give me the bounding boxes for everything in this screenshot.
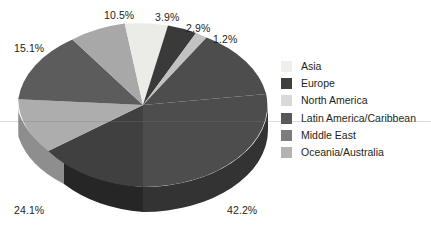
label-latin-america-pct: 1.2% — [213, 33, 237, 45]
label-middle-east-pct: 10.5% — [104, 9, 134, 21]
legend-swatch-europe — [281, 78, 292, 89]
legend-swatch-oceania — [281, 147, 292, 158]
legend-label-oceania: Oceania/Australia — [301, 147, 384, 158]
legend-label-north-america: North America — [301, 95, 368, 106]
legend-item-europe[interactable]: Europe — [281, 75, 431, 92]
legend-swatch-middle-east — [281, 130, 292, 141]
legend-item-latin-america[interactable]: Latin America/Caribbean — [281, 110, 431, 127]
legend-item-north-america[interactable]: North America — [281, 92, 431, 109]
label-oceania-pct: 15.1% — [14, 42, 44, 54]
pie-graphic — [0, 0, 285, 235]
legend-label-europe: Europe — [301, 78, 335, 89]
pie-svg — [0, 0, 285, 235]
pie-chart: 10.5% 3.9% 2.9% 1.2% 15.1% 24.1% 42.2% A… — [0, 0, 431, 235]
label-north-america-pct: 3.9% — [155, 11, 179, 23]
label-asia-pct: 42.2% — [227, 204, 257, 216]
legend-label-latin-america: Latin America/Caribbean — [301, 113, 416, 124]
legend-swatch-asia — [281, 61, 292, 72]
label-europe-pct: 24.1% — [14, 204, 44, 216]
legend-swatch-latin-america — [281, 113, 292, 124]
legend-label-middle-east: Middle East — [301, 130, 356, 141]
wall-oceania-tip — [18, 105, 19, 137]
legend-swatch-north-america — [281, 95, 292, 106]
legend-item-asia[interactable]: Asia — [281, 58, 431, 75]
legend: Asia Europe North America Latin America/… — [281, 58, 431, 161]
legend-label-asia: Asia — [301, 61, 321, 72]
legend-item-oceania[interactable]: Oceania/Australia — [281, 144, 431, 161]
legend-item-middle-east[interactable]: Middle East — [281, 127, 431, 144]
label-europe-small-pct: 2.9% — [186, 22, 210, 34]
